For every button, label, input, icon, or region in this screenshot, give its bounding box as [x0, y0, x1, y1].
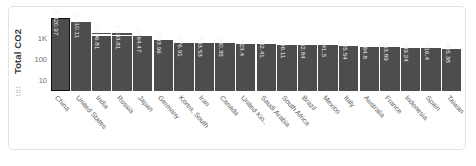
x-axis-label-slot[interactable]: South Africa: [277, 93, 296, 149]
bar-value-label: 363.89: [383, 41, 390, 61]
x-axis-label: Brazil: [301, 94, 318, 112]
bar-slot[interactable]: 482.41: [257, 15, 276, 91]
bar[interactable]: 1,164.47: [133, 36, 152, 91]
bar-slot[interactable]: 316.4: [421, 15, 440, 91]
drag-handle-icon[interactable]: ⣿: [13, 85, 23, 97]
bar-value-label: 8,320.97: [53, 11, 60, 36]
x-axis-label-slot[interactable]: India: [92, 93, 111, 149]
x-axis-label-slot[interactable]: United States: [71, 93, 90, 149]
bar-value-label: 316.4: [424, 44, 431, 60]
y-axis-title-label: Total CO2: [13, 28, 24, 73]
x-axis-label: Italy: [342, 94, 356, 108]
bar[interactable]: 305.38: [442, 49, 461, 91]
bar[interactable]: 363.89: [380, 47, 399, 91]
bar-slot[interactable]: 339.24: [401, 15, 420, 91]
x-axis-label: Spain: [425, 94, 442, 112]
bar-series: 8,320.975,610.111,696.811,633.811,164.47…: [50, 15, 462, 91]
bar[interactable]: 540.35: [215, 43, 234, 91]
bar[interactable]: 5,610.11: [71, 22, 90, 91]
x-axis-label: China: [54, 94, 71, 112]
bar[interactable]: 793.96: [154, 40, 173, 91]
bar-value-label: 1,696.81: [94, 24, 101, 49]
x-axis-label: Iran: [198, 94, 211, 108]
bar-value-label: 576.91: [177, 37, 184, 57]
x-axis-label-slot[interactable]: Taiwan: [442, 93, 461, 149]
bar[interactable]: 339.24: [401, 48, 420, 91]
x-axis-label-slot[interactable]: Saudi Arabia: [257, 93, 276, 149]
bar-value-label: 482.41: [259, 39, 266, 59]
x-axis-label: Japan: [136, 94, 154, 113]
x-axis-label-slot[interactable]: Germany: [154, 93, 173, 149]
chart-widget: Total CO2 ⣿ 1K10010 8,320.975,610.111,69…: [8, 6, 466, 150]
bar[interactable]: 1,696.81: [92, 33, 111, 91]
bar-value-label: 793.96: [156, 34, 163, 54]
y-axis-tick: 10: [25, 75, 47, 84]
x-axis-labels: ChinaUnited StatesIndiaRussiaJapanGerman…: [50, 93, 462, 149]
x-axis-label-slot[interactable]: Iran: [195, 93, 214, 149]
bar-value-label: 405.54: [342, 40, 349, 60]
bar-value-label: 540.35: [218, 38, 225, 58]
x-axis-label: India: [95, 94, 110, 110]
x-axis-label-slot[interactable]: Italy: [339, 93, 358, 149]
bar-slot[interactable]: 452.84: [298, 15, 317, 91]
x-axis-label-slot[interactable]: Korea, South: [174, 93, 193, 149]
x-axis-label-slot[interactable]: Japan: [133, 93, 152, 149]
bar-value-label: 1,164.47: [136, 28, 143, 53]
bar[interactable]: 8,320.97: [51, 18, 70, 91]
y-axis-tick: 100: [25, 54, 47, 63]
bar[interactable]: 384.8: [360, 47, 379, 91]
bar-slot[interactable]: 305.38: [442, 15, 461, 91]
x-axis-label-slot[interactable]: Australia: [360, 93, 379, 149]
y-axis-ticks: 1K10010: [25, 15, 47, 91]
bar-slot[interactable]: 1,696.81: [92, 15, 111, 91]
bar-value-label: 543.53: [197, 38, 204, 58]
bar-value-label: 1,633.81: [115, 25, 122, 50]
bar-value-label: 339.24: [403, 42, 410, 62]
bar-slot[interactable]: 523.4: [236, 15, 255, 91]
bar-slot[interactable]: 466.11: [277, 15, 296, 91]
bar-slot[interactable]: 1,633.81: [112, 15, 131, 91]
y-axis-title: Total CO2: [11, 15, 25, 87]
bar[interactable]: 316.4: [421, 48, 440, 91]
x-axis-label-slot[interactable]: Indonesia: [401, 93, 420, 149]
x-axis-label-slot[interactable]: Brazil: [298, 93, 317, 149]
bar[interactable]: 523.4: [236, 44, 255, 91]
bar-value-label: 523.4: [239, 40, 246, 56]
bar-slot[interactable]: 8,320.97: [51, 15, 70, 91]
bar[interactable]: 576.91: [174, 43, 193, 91]
bar[interactable]: 452.84: [298, 45, 317, 91]
bar[interactable]: 543.53: [195, 43, 214, 91]
bar-slot[interactable]: 1,164.47: [133, 15, 152, 91]
x-axis-label-slot[interactable]: China: [51, 93, 70, 149]
bar-value-label: 384.8: [362, 43, 369, 59]
x-axis-label-slot[interactable]: France: [380, 93, 399, 149]
bar[interactable]: 482.41: [257, 44, 276, 91]
bar[interactable]: 441.5: [318, 45, 337, 91]
bar-value-label: 452.84: [300, 39, 307, 59]
bar-value-label: 305.38: [445, 43, 452, 63]
bar-slot[interactable]: 540.35: [215, 15, 234, 91]
bar-slot[interactable]: 405.54: [339, 15, 358, 91]
bar-slot[interactable]: 363.89: [380, 15, 399, 91]
x-axis-label: Taiwan: [445, 94, 465, 115]
bar[interactable]: 405.54: [339, 46, 358, 91]
bar[interactable]: 1,633.81: [112, 33, 131, 91]
plot-area: 8,320.975,610.111,696.811,633.811,164.47…: [50, 15, 462, 91]
bar-slot[interactable]: 793.96: [154, 15, 173, 91]
bar-value-label: 441.5: [321, 41, 328, 57]
bar-value-label: 466.11: [280, 39, 287, 58]
bar[interactable]: 466.11: [277, 45, 296, 91]
bar-slot[interactable]: 441.5: [318, 15, 337, 91]
bar-slot[interactable]: 576.91: [174, 15, 193, 91]
x-axis-label-slot[interactable]: Russia: [112, 93, 131, 149]
y-axis-tick: 1K: [25, 33, 47, 42]
x-axis-label-slot[interactable]: Canada: [215, 93, 234, 149]
bar-slot[interactable]: 384.8: [360, 15, 379, 91]
x-axis-label-slot[interactable]: Mexico: [318, 93, 337, 149]
bar-value-label: 5,610.11: [74, 14, 81, 38]
bar-slot[interactable]: 5,610.11: [71, 15, 90, 91]
bar-slot[interactable]: 543.53: [195, 15, 214, 91]
x-axis-label-slot[interactable]: Spain: [421, 93, 440, 149]
x-axis-label-slot[interactable]: United Kin..: [236, 93, 255, 149]
